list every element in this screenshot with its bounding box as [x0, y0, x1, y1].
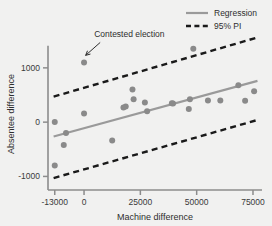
chart-canvas: -13000, -800-13000, 1-9000, -420-8000, -…: [0, 0, 272, 226]
data-point: 68500, 680: [235, 82, 241, 88]
data-point: 18500, 290: [123, 103, 129, 109]
data-point: 71500, 395: [242, 98, 248, 104]
y-tick-label: 0: [35, 117, 40, 127]
data-point: -9000, -420: [61, 142, 67, 148]
data-point: 47000, 420: [187, 96, 193, 102]
data-point: 48500, 1350: [190, 46, 196, 52]
y-tick-label: 1000: [21, 63, 40, 73]
x-axis-title: Machine difference: [117, 212, 193, 222]
y-tick-label: -1000: [18, 171, 40, 181]
annotation-label-contested-election: Contested election: [94, 29, 165, 39]
x-tick-label: -13000: [42, 197, 69, 207]
data-point: -13000, 1: [52, 119, 58, 125]
data-point-contested-election: Contested election — 0, 1100: [81, 59, 87, 65]
data-point: 60500, 400: [217, 97, 223, 103]
data-point: 27000, 360: [142, 100, 148, 106]
scatter-chart: -13000, -800-13000, 1-9000, -420-8000, -…: [0, 0, 272, 226]
x-tick-label: 25000: [129, 197, 153, 207]
x-tick-label: 50000: [185, 197, 209, 207]
data-point: 75500, 570: [251, 88, 257, 94]
data-point: 0, 160: [81, 110, 87, 116]
legend-label-regression: Regression: [214, 8, 257, 18]
y-axis-title: Absentee difference: [6, 74, 16, 154]
x-tick-label: 75000: [241, 197, 265, 207]
x-tick-label: 0: [82, 197, 87, 207]
data-point: 12500, -340: [109, 138, 115, 144]
data-point: 22000, 420: [131, 96, 137, 102]
data-point: -13000, -800: [52, 163, 58, 169]
data-point: 28000, 200: [144, 108, 150, 114]
data-point: 21500, 600: [129, 87, 135, 93]
data-point: 39500, 345: [170, 100, 176, 106]
data-point: -8000, -200: [63, 130, 69, 136]
data-point: 46500, 240: [186, 106, 192, 112]
data-point: 55000, 400: [205, 97, 211, 103]
legend-label-pi: 95% PI: [214, 21, 241, 31]
